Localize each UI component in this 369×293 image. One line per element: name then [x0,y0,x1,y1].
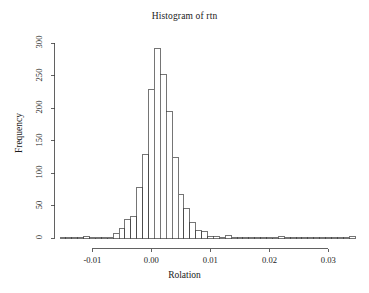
x-tick-label: -0.01 [83,255,101,265]
y-tick-label: 100 [28,167,50,177]
y-tick-label: 0 [28,232,50,242]
x-tick-label: 0.01 [203,255,218,265]
histogram-bars [60,48,355,238]
x-tick-label: 0.03 [321,255,336,265]
x-axis-title: Rolation [0,270,369,280]
y-tick-label: 200 [28,102,50,112]
y-tick-label: 300 [28,37,50,47]
y-tick-label: 50 [28,200,50,210]
y-tick-label: 250 [28,70,50,80]
histogram-screenshot: Histogram of rtn -0.010.000.010.020.03 0… [0,0,369,293]
x-tick-label: 0.00 [144,255,159,265]
x-tick-label: 0.02 [262,255,277,265]
y-axis-title: Frequency [14,88,24,178]
histogram-plot [0,0,369,293]
y-tick-label: 150 [28,135,50,145]
